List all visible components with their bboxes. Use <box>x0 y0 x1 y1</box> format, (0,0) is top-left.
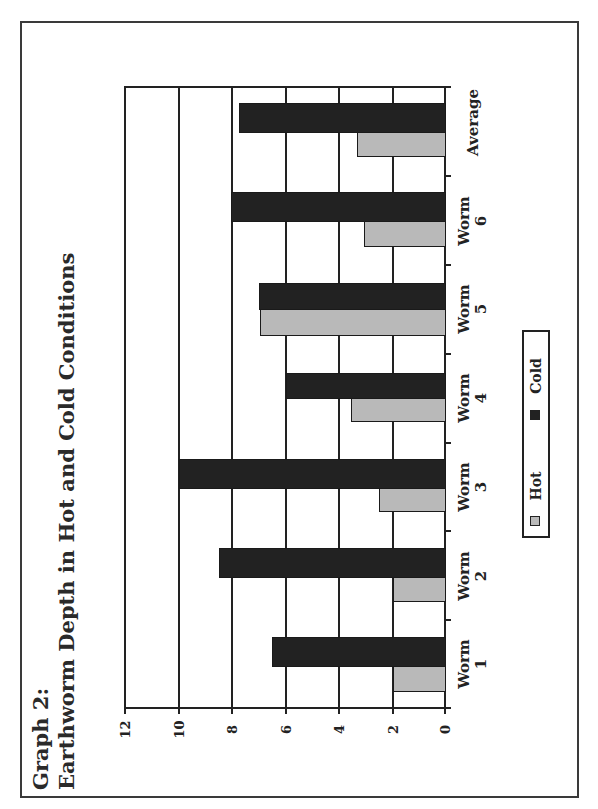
bar-worm5-hot <box>260 309 446 336</box>
category-label-line2: 2 <box>473 531 490 621</box>
bar-worm3-cold <box>179 459 446 489</box>
chart-title-line2: Earthworm Depth in Hot and Cold Conditio… <box>54 110 80 790</box>
category-label-worm4: Worm 4 <box>456 353 490 443</box>
value-tick-label-8: 8 <box>225 715 240 745</box>
value-tick <box>285 708 287 714</box>
value-tick-label-0: 0 <box>438 715 453 745</box>
bar-worm4-cold <box>286 373 446 399</box>
value-tick <box>124 708 126 714</box>
bar-worm6-hot <box>364 221 446 247</box>
category-tick <box>445 707 451 709</box>
category-tick <box>445 530 451 532</box>
category-label-worm1: Worm 1 <box>456 619 490 709</box>
bar-worm1-hot <box>393 666 446 692</box>
category-label-line1: Worm <box>456 353 473 443</box>
category-label-line2: 3 <box>473 442 490 532</box>
bar-worm4-hot <box>351 398 446 422</box>
value-tick-label-10: 10 <box>172 715 187 745</box>
value-tick <box>178 708 180 714</box>
legend-item-hot: Hot <box>524 442 548 538</box>
category-label-worm5: Worm 5 <box>456 264 490 354</box>
category-tick <box>445 442 451 444</box>
legend-swatch-cold <box>530 410 540 420</box>
category-label-worm2: Worm 2 <box>456 531 490 621</box>
bar-worm2-hot <box>393 577 446 602</box>
value-axis <box>124 707 451 709</box>
chart-title-line1: Graph 2: <box>28 110 54 790</box>
value-tick-label-12: 12 <box>118 715 133 745</box>
category-label-worm3: Worm 3 <box>456 442 490 532</box>
category-label-line1: Worm <box>456 442 473 532</box>
gridline-10 <box>178 86 180 708</box>
legend-item-cold: Cold <box>524 332 548 432</box>
category-label-line1: Worm <box>456 176 473 266</box>
category-label-line1: Worm <box>456 619 473 709</box>
gridline-8 <box>231 86 233 708</box>
category-label-average: Average <box>465 78 482 168</box>
value-tick <box>338 708 340 714</box>
bar-worm6-cold <box>231 192 446 222</box>
category-tick <box>445 86 451 88</box>
bar-average-hot <box>357 132 446 157</box>
category-label-line2: 1 <box>473 619 490 709</box>
category-label-line2: 4 <box>473 353 490 443</box>
category-label-line2: 6 <box>473 176 490 266</box>
category-label-line1: Average <box>465 78 482 168</box>
legend-label-hot: Hot <box>528 459 544 513</box>
bar-worm2-cold <box>219 548 446 578</box>
category-tick <box>445 619 451 621</box>
bar-worm3-hot <box>379 488 446 512</box>
value-tick <box>231 708 233 714</box>
bar-worm1-cold <box>272 637 446 667</box>
bar-average-cold <box>239 103 446 133</box>
category-tick <box>445 175 451 177</box>
category-tick <box>445 264 451 266</box>
category-label-line1: Worm <box>456 264 473 354</box>
category-label-line1: Worm <box>456 531 473 621</box>
value-tick <box>392 708 394 714</box>
category-tick <box>445 353 451 355</box>
chart-title: Graph 2: Earthworm Depth in Hot and Cold… <box>28 110 80 790</box>
chart-legend: Hot Cold <box>522 330 550 538</box>
category-label-line2: 5 <box>473 264 490 354</box>
value-tick-label-4: 4 <box>332 715 347 745</box>
value-tick-label-6: 6 <box>279 715 294 745</box>
category-label-worm6: Worm 6 <box>456 176 490 266</box>
bar-worm5-cold <box>259 283 446 310</box>
legend-swatch-hot <box>530 516 540 526</box>
value-tick-label-2: 2 <box>386 715 401 745</box>
legend-label-cold: Cold <box>528 349 544 403</box>
